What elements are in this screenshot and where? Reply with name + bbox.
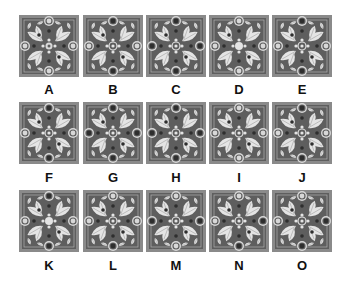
tile-option-h[interactable] xyxy=(146,102,206,164)
tile-option-e[interactable] xyxy=(272,15,332,77)
tile-pattern-icon xyxy=(19,102,79,164)
tile-pattern-icon xyxy=(272,102,332,164)
tile-option-n[interactable] xyxy=(209,190,269,252)
tile-label: N xyxy=(209,258,269,273)
tile-label: J xyxy=(272,170,332,185)
tile-label: D xyxy=(209,82,269,97)
tile-pattern-icon xyxy=(272,15,332,77)
tile-label: E xyxy=(272,82,332,97)
tile-option-m[interactable] xyxy=(146,190,206,252)
tile-label: A xyxy=(19,82,79,97)
tile-pattern-icon xyxy=(19,15,79,77)
tile-pattern-icon xyxy=(83,190,143,252)
tile-option-l[interactable] xyxy=(83,190,143,252)
tile-pattern-icon xyxy=(272,190,332,252)
tile-label: K xyxy=(19,258,79,273)
tile-option-b[interactable] xyxy=(83,15,143,77)
tile-option-c[interactable] xyxy=(146,15,206,77)
tile-pattern-icon xyxy=(209,190,269,252)
tile-label: L xyxy=(83,258,143,273)
tile-option-k[interactable] xyxy=(19,190,79,252)
tile-pattern-icon xyxy=(146,190,206,252)
tile-option-d[interactable] xyxy=(209,15,269,77)
tile-pattern-icon xyxy=(83,15,143,77)
tile-pattern-icon xyxy=(146,15,206,77)
tile-option-a[interactable] xyxy=(19,15,79,77)
tile-pattern-icon xyxy=(19,190,79,252)
tile-label: B xyxy=(83,82,143,97)
tile-pattern-icon xyxy=(209,15,269,77)
tile-label: G xyxy=(83,170,143,185)
tile-label: H xyxy=(146,170,206,185)
tile-label: M xyxy=(146,258,206,273)
tile-label: F xyxy=(19,170,79,185)
tile-pattern-icon xyxy=(146,102,206,164)
tile-option-g[interactable] xyxy=(83,102,143,164)
tile-pattern-icon xyxy=(83,102,143,164)
tile-pattern-icon xyxy=(209,102,269,164)
tile-option-o[interactable] xyxy=(272,190,332,252)
tile-option-i[interactable] xyxy=(209,102,269,164)
tile-option-f[interactable] xyxy=(19,102,79,164)
tile-label: I xyxy=(209,170,269,185)
tile-label: C xyxy=(146,82,206,97)
tile-option-j[interactable] xyxy=(272,102,332,164)
tile-label: O xyxy=(272,258,332,273)
